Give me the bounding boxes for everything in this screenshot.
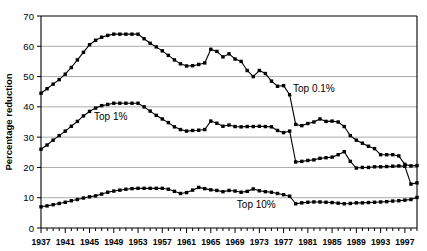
series-marker-0 [70, 66, 73, 69]
series-marker-0 [124, 32, 127, 35]
series-marker-0 [64, 72, 67, 75]
series-marker-0 [185, 64, 188, 67]
series-annotation-1: Top 1% [94, 111, 127, 122]
series-marker-2 [209, 188, 212, 191]
series-marker-2 [51, 203, 54, 206]
series-marker-0 [312, 120, 315, 123]
series-marker-0 [155, 45, 158, 48]
series-marker-0 [148, 42, 151, 45]
series-marker-2 [258, 189, 261, 192]
series-marker-1 [318, 157, 321, 160]
y-tick-label-0: 0 [29, 223, 34, 234]
series-marker-0 [264, 72, 267, 75]
series-marker-1 [221, 125, 224, 128]
series-marker-2 [57, 202, 60, 205]
series-marker-0 [142, 37, 145, 40]
series-marker-2 [264, 190, 267, 193]
series-marker-1 [112, 102, 115, 105]
series-marker-1 [197, 128, 200, 131]
series-marker-1 [161, 117, 164, 120]
series-marker-2 [173, 190, 176, 193]
series-marker-1 [155, 114, 158, 117]
chart-container: 0102030405060701937194119451949195319571… [0, 0, 427, 251]
series-marker-2 [252, 187, 255, 190]
series-marker-0 [82, 51, 85, 54]
x-tick-label-1997: 1997 [395, 237, 414, 247]
series-marker-1 [294, 160, 297, 163]
series-marker-0 [239, 60, 242, 63]
series-marker-0 [258, 69, 261, 72]
series-marker-0 [391, 153, 394, 156]
series-marker-0 [349, 134, 352, 137]
series-marker-2 [39, 205, 42, 208]
series-marker-0 [227, 52, 230, 55]
series-marker-0 [233, 57, 236, 60]
series-marker-1 [239, 125, 242, 128]
series-marker-0 [118, 32, 121, 35]
series-marker-1 [355, 166, 358, 169]
series-marker-1 [361, 166, 364, 169]
series-marker-0 [221, 55, 224, 58]
series-marker-1 [391, 165, 394, 168]
series-marker-1 [179, 128, 182, 131]
series-marker-2 [167, 188, 170, 191]
series-marker-2 [45, 204, 48, 207]
series-marker-1 [130, 102, 133, 105]
series-marker-0 [245, 69, 248, 72]
series-marker-0 [252, 75, 255, 78]
series-marker-0 [161, 49, 164, 52]
y-tick-label-20: 20 [23, 162, 34, 173]
series-marker-2 [245, 190, 248, 193]
series-marker-1 [415, 181, 418, 184]
series-marker-0 [88, 43, 91, 46]
series-annotation-2: Top 10% [237, 199, 276, 210]
series-marker-1 [51, 138, 54, 141]
series-marker-1 [252, 125, 255, 128]
series-marker-2 [70, 199, 73, 202]
x-tick-label-1977: 1977 [274, 237, 293, 247]
series-marker-2 [300, 201, 303, 204]
series-marker-1 [385, 165, 388, 168]
series-marker-1 [57, 134, 60, 137]
series-marker-1 [76, 120, 79, 123]
series-marker-2 [179, 192, 182, 195]
x-tick-label-1973: 1973 [250, 237, 269, 247]
series-marker-1 [106, 103, 109, 106]
x-tick-label-1985: 1985 [323, 237, 342, 247]
series-marker-1 [209, 119, 212, 122]
series-marker-2 [397, 199, 400, 202]
y-tick-label-50: 50 [23, 71, 34, 82]
series-marker-0 [179, 62, 182, 65]
series-marker-0 [415, 164, 418, 167]
series-marker-1 [379, 165, 382, 168]
series-marker-2 [324, 201, 327, 204]
series-marker-2 [330, 201, 333, 204]
series-marker-0 [136, 32, 139, 35]
series-marker-1 [215, 122, 218, 125]
x-tick-label-1993: 1993 [371, 237, 390, 247]
series-marker-2 [349, 202, 352, 205]
series-annotation-0: Top 0.1% [293, 83, 335, 94]
series-marker-1 [288, 129, 291, 132]
series-marker-2 [403, 198, 406, 201]
series-marker-1 [264, 125, 267, 128]
series-marker-1 [191, 129, 194, 132]
x-tick-label-1937: 1937 [31, 237, 50, 247]
series-marker-2 [312, 200, 315, 203]
series-marker-0 [300, 124, 303, 127]
series-marker-1 [148, 109, 151, 112]
series-marker-2 [373, 201, 376, 204]
series-marker-1 [403, 165, 406, 168]
series-marker-0 [39, 92, 42, 95]
series-marker-2 [142, 187, 145, 190]
series-marker-0 [130, 32, 133, 35]
series-marker-0 [409, 164, 412, 167]
series-marker-0 [385, 153, 388, 156]
series-marker-0 [100, 36, 103, 39]
series-marker-1 [324, 156, 327, 159]
series-marker-0 [203, 61, 206, 64]
series-marker-1 [245, 125, 248, 128]
series-marker-2 [294, 202, 297, 205]
series-marker-0 [288, 93, 291, 96]
series-marker-1 [227, 123, 230, 126]
